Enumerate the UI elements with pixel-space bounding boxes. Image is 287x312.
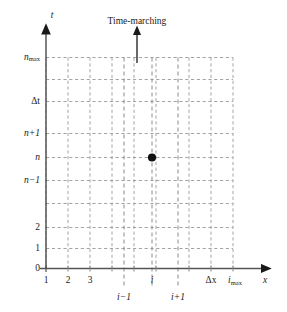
x-tick-label-i: i: [151, 276, 154, 286]
figure-canvas: [0, 0, 287, 312]
horizontal-gridlines: [46, 58, 233, 249]
x-delta-x-label: Δx: [206, 276, 217, 286]
x-tick-label-imax: imax: [228, 276, 242, 286]
y-tick-label-n-plus-1: n+1: [24, 129, 40, 139]
y-tick-label-0: 0: [35, 264, 40, 274]
x-tick-label-i-plus-1: i+1: [171, 293, 185, 303]
y-tick-label-2: 2: [35, 223, 40, 233]
time-marching-grid-figure: Time-marching t x nmax Δt n+1 n n−1 2 1 …: [0, 0, 287, 312]
time-marching-title: Time-marching: [108, 17, 167, 27]
x-tick-label-1: 1: [44, 276, 49, 286]
y-tick-label-n-minus-1: n−1: [24, 176, 40, 186]
y-tick-label-1: 1: [35, 244, 40, 254]
x-tick-label-3: 3: [88, 276, 93, 286]
y-tick-label-nmax: nmax: [24, 53, 40, 63]
y-delta-t-label: Δt: [31, 97, 40, 107]
y-tick-label-n: n: [35, 153, 40, 163]
x-tick-label-i-minus-1: i−1: [117, 293, 131, 303]
y-axis-label: t: [51, 11, 54, 21]
grid-node-marker: [148, 153, 156, 161]
stencil-highlight-lines: [124, 58, 178, 289]
x-axis-label: x: [263, 276, 267, 286]
x-tick-label-2: 2: [66, 276, 71, 286]
vertical-gridlines: [46, 58, 233, 269]
